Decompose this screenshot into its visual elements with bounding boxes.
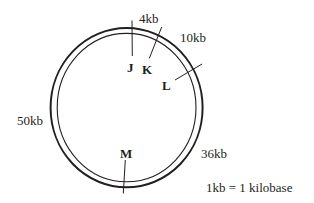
position-label-10kb: 10kb [180,31,206,44]
position-label-4kb: 4kb [139,12,159,25]
gene-label-j: J [127,61,134,74]
map-graphic [0,0,314,203]
gene-m-marker [123,160,125,194]
position-label-36kb: 36kb [201,147,227,160]
gene-label-k: K [142,63,152,76]
gene-label-l: L [162,79,171,92]
gene-label-m: M [120,147,132,160]
circular-map-diagram: 4kb 10kb 36kb 50kb J K L M 1kb = 1 kilob… [0,0,314,203]
legend-kilobase: 1kb = 1 kilobase [206,181,292,194]
position-label-50kb: 50kb [17,114,43,127]
outer-ring [51,28,203,187]
